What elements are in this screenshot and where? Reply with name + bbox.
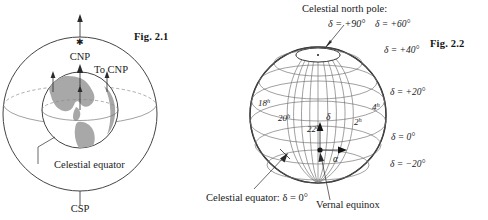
figure-sheet: ✱ CNP CSP <box>0 0 488 220</box>
pole-star-icon: ✱ <box>76 37 84 47</box>
ra-2h-sup: h <box>359 116 362 123</box>
ra-20h-sup: h <box>287 112 290 119</box>
leader-arrow-icon <box>325 40 332 48</box>
dec-label-plus-40: δ = +40° <box>384 45 419 55</box>
celestial-equator-label: Celestial equator <box>54 159 125 170</box>
north-pole-point <box>317 54 319 56</box>
dec-label-minus-20: δ = −20° <box>390 159 425 169</box>
up-arrow-icon <box>77 14 83 22</box>
figure-2-1-caption: Fig. 2.1 <box>134 31 169 42</box>
figure-2-2-caption: Fig. 2.2 <box>430 38 465 49</box>
figure-2-1-panel: ✱ CNP CSP <box>0 0 244 220</box>
to-cnp-label: To CNP <box>94 64 128 75</box>
ra-18h-sup: h <box>267 97 270 104</box>
declination-symbol-label: δ <box>326 112 331 122</box>
dec-label-plus-20: δ = +20° <box>390 87 425 97</box>
cnp-label: CNP <box>70 51 91 62</box>
dec-label-plus-60: δ = +60° <box>375 19 410 29</box>
figure-2-2-panel: δ = +60° δ = +40° δ = +20° δ = 0° δ = −2… <box>244 0 488 220</box>
figure-2-2-drawing: δ = +60° δ = +40° δ = +20° δ = 0° δ = −2… <box>244 0 488 220</box>
ra-4h-sup: h <box>377 101 380 108</box>
dec-label-zero: δ = 0° <box>391 132 415 142</box>
csp-label: CSP <box>71 203 90 214</box>
figure-2-1-drawing: ✱ CNP CSP <box>0 0 244 220</box>
